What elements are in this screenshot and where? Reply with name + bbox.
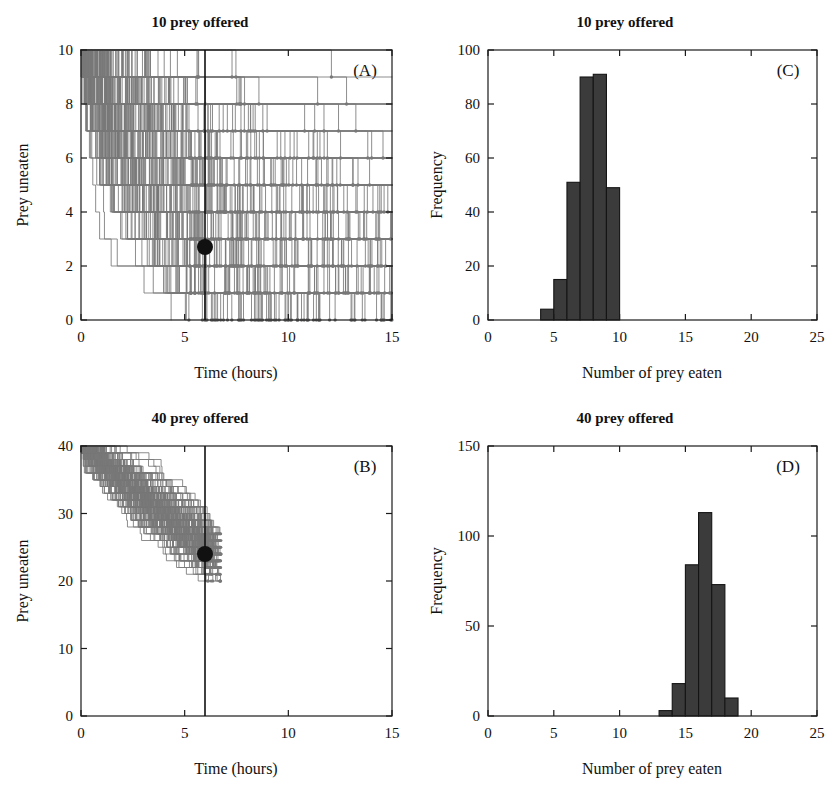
trace-endpoint-dot [209, 129, 212, 132]
x-tick-label: 5 [550, 725, 558, 741]
histogram-bar [554, 280, 567, 321]
y-tick-label: 50 [465, 618, 480, 634]
panel-b-ylabel: Prey uneaten [14, 539, 32, 622]
panel-b-svg: 40 prey offered (B) 051015010203040 Time… [0, 396, 420, 792]
panel-d-frame [488, 446, 817, 716]
x-tick-label: 15 [678, 329, 693, 345]
x-tick-label: 10 [612, 329, 627, 345]
panel-d-xlabel: Number of prey eaten [582, 760, 722, 778]
trace-endpoint-dot [381, 156, 384, 159]
trace-endpoint-dot [290, 264, 293, 267]
panel-c-histogram-10-prey: 10 prey offered (C) 05101520250204060801… [420, 0, 840, 396]
trace-endpoint-dot [219, 552, 222, 555]
panel-a-svg: 10 prey offered (A) 0510150246810 Time (… [0, 0, 420, 396]
trace-endpoint-dot [234, 129, 237, 132]
trace-endpoint-dot [298, 210, 301, 213]
panel-c-xlabel: Number of prey eaten [582, 364, 722, 382]
panel-d-ticks [488, 446, 817, 716]
y-tick-label: 0 [473, 312, 481, 328]
panel-c-letter: (C) [777, 61, 800, 80]
histogram-bar [672, 684, 685, 716]
x-tick-label: 15 [678, 725, 693, 741]
x-tick-label: 15 [385, 725, 400, 741]
trace-endpoint-dot [245, 291, 248, 294]
figure-panel-grid: 10 prey offered (A) 0510150246810 Time (… [0, 0, 840, 792]
y-tick-label: 150 [458, 438, 481, 454]
histogram-bar [712, 585, 725, 716]
panel-c-ticks [488, 50, 817, 320]
y-tick-label: 10 [58, 641, 73, 657]
panel-d-bars [659, 513, 738, 716]
y-tick-label: 20 [465, 258, 480, 274]
panel-c-ylabel: Frequency [428, 151, 446, 219]
histogram-bar [685, 565, 698, 716]
trace-endpoint-dot [213, 264, 216, 267]
trace-endpoint-dot [219, 579, 222, 582]
y-tick-label: 100 [458, 42, 481, 58]
x-tick-label: 0 [484, 725, 492, 741]
panel-b-letter: (B) [354, 457, 377, 476]
trace-endpoint-dot [218, 546, 221, 549]
trace-endpoint-dot [249, 129, 252, 132]
x-tick-label: 15 [385, 329, 400, 345]
histogram-bar [606, 188, 619, 320]
y-tick-label: 2 [66, 258, 74, 274]
histogram-bar [580, 77, 593, 320]
panel-a-xlabel: Time (hours) [194, 364, 277, 382]
x-tick-label: 10 [281, 725, 296, 741]
panel-d-tick-labels: 0510152025050100150 [458, 438, 825, 741]
histogram-bar [567, 182, 580, 320]
trace-endpoint-dot [217, 532, 220, 535]
y-tick-label: 0 [66, 312, 74, 328]
panel-c-title: 10 prey offered [577, 14, 675, 30]
trace-endpoint-dot [239, 102, 242, 105]
histogram-bar [541, 309, 554, 320]
x-tick-label: 0 [484, 329, 492, 345]
panel-d-title: 40 prey offered [577, 410, 675, 426]
x-tick-label: 20 [744, 725, 759, 741]
trace-endpoint-dot [215, 552, 218, 555]
y-tick-label: 40 [465, 204, 480, 220]
x-tick-label: 10 [281, 329, 296, 345]
x-tick-label: 5 [550, 329, 558, 345]
histogram-bar [659, 711, 672, 716]
panel-b-mean-dot [197, 546, 213, 562]
panel-b-xlabel: Time (hours) [194, 760, 277, 778]
panel-a-traces [81, 50, 394, 322]
y-tick-label: 0 [66, 708, 74, 724]
x-tick-label: 25 [810, 725, 825, 741]
panel-d-letter: (D) [776, 457, 800, 476]
panel-b-title: 40 prey offered [152, 410, 250, 426]
trace-endpoint-dot [242, 210, 245, 213]
x-tick-label: 0 [77, 725, 85, 741]
trace-endpoint-dot [234, 75, 237, 78]
trace-endpoint-dot [326, 237, 329, 240]
trace-endpoint-dot [213, 156, 216, 159]
y-tick-label: 10 [58, 42, 73, 58]
panel-c-frame [488, 50, 817, 320]
y-tick-label: 30 [58, 506, 73, 522]
panel-c-bars [541, 74, 620, 320]
trace-endpoint-dot [217, 573, 220, 576]
y-tick-label: 6 [66, 150, 74, 166]
trace-endpoint-dot [310, 264, 313, 267]
trace-endpoint-dot [193, 156, 196, 159]
trace-endpoint-dot [214, 532, 217, 535]
y-tick-label: 40 [58, 438, 73, 454]
y-tick-label: 100 [458, 528, 481, 544]
trace-endpoint-dot [245, 156, 248, 159]
x-tick-label: 20 [744, 329, 759, 345]
trace-endpoint-dot [187, 129, 190, 132]
histogram-bar [725, 698, 738, 716]
trace-endpoint-dot [219, 566, 222, 569]
trace-endpoint-dot [285, 183, 288, 186]
panel-a-depletion-10-prey: 10 prey offered (A) 0510150246810 Time (… [0, 0, 420, 396]
trace-endpoint-dot [330, 75, 333, 78]
x-tick-label: 10 [612, 725, 627, 741]
panel-d-svg: 40 prey offered (D) 0510152025050100150 … [420, 396, 840, 792]
panel-a-ylabel: Prey uneaten [14, 143, 32, 226]
x-tick-label: 25 [810, 329, 825, 345]
x-tick-label: 0 [77, 329, 85, 345]
trace-endpoint-dot [354, 129, 357, 132]
y-tick-label: 80 [465, 96, 480, 112]
